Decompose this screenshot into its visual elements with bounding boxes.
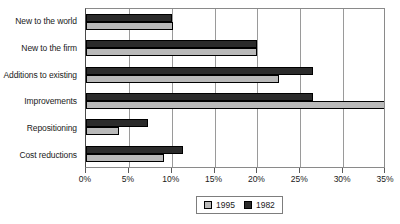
bar-group-cost-reductions (86, 141, 384, 167)
x-axis-tick (342, 168, 343, 173)
legend-label-1982: 1982 (256, 200, 275, 210)
x-axis-tick (384, 168, 385, 173)
bar-1995 (86, 48, 257, 56)
bar-1995 (86, 101, 385, 109)
x-axis-tick-label: 30% (334, 174, 351, 184)
bar-1982 (86, 67, 313, 75)
category-label-new-to-the-world: New to the world (0, 8, 81, 35)
plot-area (85, 8, 385, 168)
bar-group-improvements (86, 88, 384, 114)
bar-1995 (86, 127, 119, 135)
legend-entry-1995: 1995 (204, 200, 235, 210)
category-label-cost-reductions: Cost reductions (0, 141, 81, 168)
category-label-repositioning: Repositioning (0, 115, 81, 142)
legend-entry-1982: 1982 (244, 200, 275, 210)
x-axis-tick (214, 168, 215, 173)
category-label-additions-to-existing: Additions to existing (0, 61, 81, 88)
x-axis-tick (171, 168, 172, 173)
x-axis-tick-label: 35% (376, 174, 393, 184)
x-axis-tick-label: 25% (291, 174, 308, 184)
x-axis-tick (128, 168, 129, 173)
x-axis-tick (85, 168, 86, 173)
x-axis-tick-label: 15% (205, 174, 222, 184)
x-axis-tick-label: 5% (122, 174, 134, 184)
x-axis-labels: 0%5%10%15%20%25%30%35% (0, 174, 400, 188)
bar-rows (86, 9, 384, 167)
bar-1982 (86, 119, 148, 127)
category-label-improvements: Improvements (0, 88, 81, 115)
x-axis-tick-label: 20% (248, 174, 265, 184)
bar-group-additions-to-existing (86, 62, 384, 88)
bar-1995 (86, 154, 164, 162)
x-axis-tick (256, 168, 257, 173)
legend-swatch-icon-1995 (204, 201, 212, 209)
chart-legend: 1995 1982 (196, 196, 283, 214)
bar-group-repositioning (86, 114, 384, 140)
x-axis-tick (299, 168, 300, 173)
bar-group-new-to-the-firm (86, 35, 384, 61)
bar-chart: New to the world New to the firm Additio… (0, 0, 400, 224)
bar-group-new-to-the-world (86, 9, 384, 35)
bar-1982 (86, 40, 257, 48)
legend-swatch-icon-1982 (244, 201, 252, 209)
bar-1982 (86, 146, 183, 154)
bar-1995 (86, 75, 279, 83)
category-label-new-to-the-firm: New to the firm (0, 35, 81, 62)
legend-label-1995: 1995 (216, 200, 235, 210)
x-axis-tick-label: 0% (79, 174, 91, 184)
x-axis-tick-label: 10% (162, 174, 179, 184)
bar-1982 (86, 14, 172, 22)
bar-1995 (86, 22, 173, 30)
category-axis-labels: New to the world New to the firm Additio… (0, 8, 81, 168)
bar-1982 (86, 93, 313, 101)
